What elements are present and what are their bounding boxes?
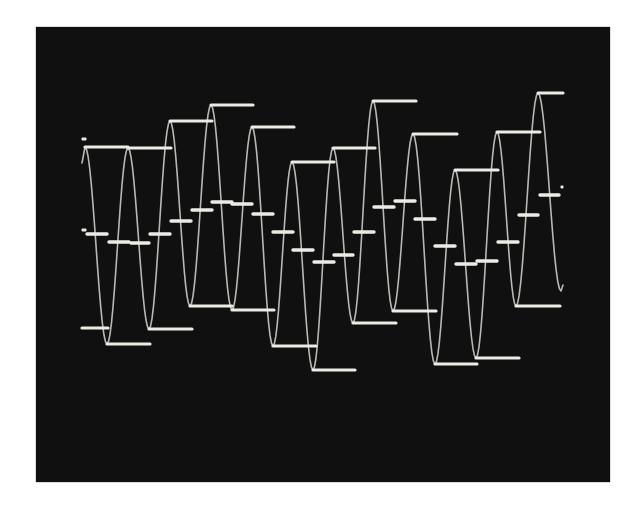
- sample-hold-steps: [82, 93, 563, 370]
- oscilloscope-traces: [0, 0, 643, 508]
- trace-marker-dot: [82, 229, 87, 232]
- trace-marker-dot: [561, 186, 564, 189]
- trace-markers: [82, 138, 564, 232]
- figure-page: [0, 0, 643, 508]
- trace-marker-dot: [82, 138, 87, 141]
